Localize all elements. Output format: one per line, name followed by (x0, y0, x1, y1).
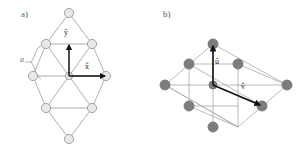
lattice-constant-label: a (20, 55, 24, 64)
lattice-node (28, 71, 37, 80)
lattice-node (41, 39, 50, 48)
lattice-node (208, 122, 218, 132)
lattice-node (184, 59, 194, 69)
panel-b-bonds (165, 44, 287, 127)
lattice-node (282, 80, 292, 90)
panel-b-label: b) (163, 9, 171, 19)
lattice-node (257, 101, 267, 111)
lattice-node (184, 101, 194, 111)
y-hat-label: ŷ (64, 28, 68, 37)
lattice-node (233, 59, 243, 69)
lattice-node (87, 103, 96, 112)
lattice-node (41, 103, 50, 112)
figure-canvas (0, 0, 306, 166)
x-hat-label: x̂ (85, 62, 89, 71)
v-hat-label: v̂ (241, 82, 245, 91)
panel-b-vectors (213, 46, 260, 105)
panel-a-label: a) (21, 9, 28, 19)
lattice-node (64, 8, 73, 17)
lattice-node (87, 39, 96, 48)
u-hat-label: û (215, 57, 219, 66)
lattice-figure: a) b) ŷ x̂ û v̂ a (0, 0, 306, 166)
lattice-node (160, 80, 170, 90)
lattice-node (64, 134, 73, 143)
v-hat-arrow (213, 85, 260, 105)
